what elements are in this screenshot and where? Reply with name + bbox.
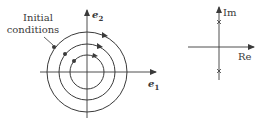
phase-portrait: Initial conditions e2 e1 xyxy=(7,9,160,118)
im-label: Im xyxy=(223,7,237,18)
figure-canvas: Initial conditions e2 e1 Im Re xyxy=(0,0,268,124)
annotation-line2: conditions xyxy=(7,24,59,35)
e1-label: e1 xyxy=(148,78,159,92)
initial-condition-point xyxy=(72,59,76,63)
annotation-leader xyxy=(44,37,53,45)
initial-condition-point xyxy=(63,52,67,56)
e2-label: e2 xyxy=(92,9,103,23)
pole-plot: Im Re xyxy=(188,7,254,80)
annotation-line1: Initial xyxy=(23,12,53,23)
initial-condition-point xyxy=(52,45,56,49)
re-label: Re xyxy=(238,51,252,62)
